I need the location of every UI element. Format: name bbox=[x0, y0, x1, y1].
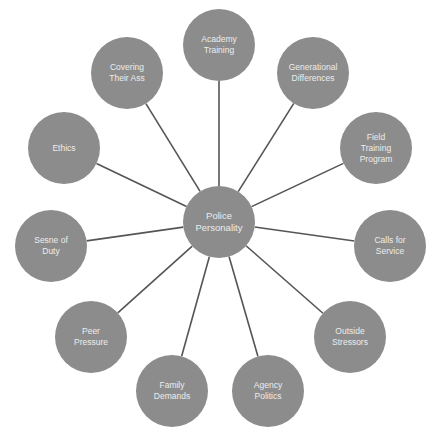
node-calls-for-service: Calls for Service bbox=[354, 210, 426, 282]
node-label: Police Personality bbox=[196, 210, 243, 234]
node-label: Outside Stressors bbox=[332, 326, 368, 348]
node-covering-their-ass: Covering Their Ass bbox=[91, 37, 163, 109]
node-label: Ethics bbox=[52, 143, 75, 154]
node-label: Family Demands bbox=[154, 380, 190, 402]
node-label: Sesne of Duty bbox=[34, 235, 68, 257]
node-academy-training: Academy Training bbox=[183, 9, 255, 81]
node-ethics: Ethics bbox=[28, 112, 100, 184]
node-label: Peer Pressure bbox=[74, 326, 108, 348]
connector-outside-stressors bbox=[246, 246, 323, 314]
node-label: Generational Differences bbox=[289, 62, 338, 84]
node-police-personality: Police Personality bbox=[183, 186, 255, 258]
node-label: Calls for Service bbox=[374, 235, 405, 257]
connector-agency-politics bbox=[229, 257, 258, 357]
node-label: Field Training Program bbox=[360, 132, 393, 165]
node-label: Academy Training bbox=[201, 34, 236, 56]
connector-field-training-program bbox=[252, 163, 344, 206]
node-generational-differences: Generational Differences bbox=[277, 37, 349, 109]
node-agency-politics: Agency Politics bbox=[232, 355, 304, 427]
connector-generational-differences bbox=[238, 103, 294, 191]
node-peer-pressure: Peer Pressure bbox=[55, 301, 127, 373]
connector-calls-for-service bbox=[255, 227, 355, 241]
connector-ethics bbox=[96, 164, 186, 207]
connector-peer-pressure bbox=[118, 246, 192, 313]
node-field-training-program: Field Training Program bbox=[340, 112, 412, 184]
connector-covering-their-ass bbox=[146, 104, 200, 192]
police-personality-diagram: Police Personality Academy Training Gene… bbox=[0, 0, 441, 441]
node-label: Agency Politics bbox=[254, 380, 282, 402]
node-sense-of-duty: Sesne of Duty bbox=[15, 210, 87, 282]
connector-sense-of-duty bbox=[87, 227, 184, 241]
node-family-demands: Family Demands bbox=[136, 355, 208, 427]
connector-family-demands bbox=[182, 257, 210, 357]
node-label: Covering Their Ass bbox=[109, 62, 144, 84]
node-outside-stressors: Outside Stressors bbox=[314, 301, 386, 373]
